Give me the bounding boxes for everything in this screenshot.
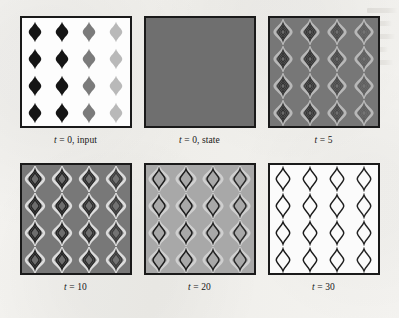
- array-cell: [146, 99, 173, 126]
- diamond-cell-icon: [103, 166, 129, 192]
- panel-panel-t10: t = 10: [14, 163, 138, 310]
- array-cell: [351, 192, 378, 219]
- diamond-cell-icon: [297, 73, 323, 99]
- diamond-cell-icon: [351, 46, 377, 72]
- array-cell: [200, 246, 227, 273]
- diamond-cell-icon: [146, 220, 172, 246]
- cell-outline: [110, 102, 123, 123]
- diamond-cell-icon: [297, 19, 323, 45]
- diamond-cell-icon: [76, 166, 102, 192]
- caption-text: = 30: [315, 282, 335, 292]
- diamond-cell-icon: [227, 220, 253, 246]
- array-cell: [200, 72, 227, 99]
- array-cell: [351, 219, 378, 246]
- diamond-cell-icon: [49, 193, 75, 219]
- array-cell: [146, 165, 173, 192]
- array-cell: [146, 72, 173, 99]
- diamond-cell-icon: [49, 73, 75, 99]
- array-cell: [297, 165, 324, 192]
- cell-outline: [303, 167, 317, 189]
- diamond-cell-icon: [227, 193, 253, 219]
- diamond-cell-icon: [297, 166, 323, 192]
- array-cell: [146, 192, 173, 219]
- array-cell: [76, 18, 103, 45]
- array-cell: [227, 165, 254, 192]
- diamond-cell-icon: [22, 220, 48, 246]
- diamond-cell-icon: [173, 166, 199, 192]
- array-cell: [173, 219, 200, 246]
- array-cell: [227, 45, 254, 72]
- array-cell: [227, 18, 254, 45]
- array-cell: [76, 45, 103, 72]
- diamond-cell-icon: [297, 247, 323, 273]
- diamond-cell-icon: [270, 166, 296, 192]
- diamond-cell-icon: [270, 247, 296, 273]
- array-cell: [103, 18, 130, 45]
- simulation-frame: [268, 16, 380, 128]
- diamond-cell-icon: [173, 193, 199, 219]
- array-cell: [200, 45, 227, 72]
- diamond-cell-icon: [76, 220, 102, 246]
- cell-outline: [303, 194, 317, 216]
- diamond-cell-icon: [76, 193, 102, 219]
- array-cell: [324, 18, 351, 45]
- panel-caption: t = 20: [188, 282, 211, 292]
- diamond-cell-icon: [324, 46, 350, 72]
- array-cell: [227, 72, 254, 99]
- cell-outline: [330, 167, 344, 189]
- array-cell: [103, 72, 130, 99]
- array-cell: [173, 72, 200, 99]
- diamond-cell-icon: [324, 193, 350, 219]
- array-cell: [270, 99, 297, 126]
- array-cell: [22, 165, 49, 192]
- cell-outline: [357, 248, 371, 270]
- array-cell: [103, 99, 130, 126]
- array-cell: [49, 45, 76, 72]
- array-cell: [146, 45, 173, 72]
- array-cell: [297, 18, 324, 45]
- diamond-cell-icon: [49, 220, 75, 246]
- panel-panel-t30: t = 30: [262, 163, 386, 310]
- array-cell: [173, 45, 200, 72]
- cell-outline: [276, 194, 290, 216]
- diamond-cell-icon: [297, 46, 323, 72]
- cell-array: [146, 165, 254, 273]
- array-cell: [76, 192, 103, 219]
- diamond-cell-icon: [200, 193, 226, 219]
- diamond-cell-icon: [351, 247, 377, 273]
- diamond-cell-icon: [351, 19, 377, 45]
- array-cell: [351, 45, 378, 72]
- panel-panel-t0-state: t = 0, state: [138, 16, 262, 163]
- diamond-cell-icon: [103, 19, 129, 45]
- diamond-cell-icon: [351, 73, 377, 99]
- array-cell: [270, 192, 297, 219]
- array-cell: [146, 219, 173, 246]
- diamond-cell-icon: [49, 166, 75, 192]
- array-cell: [173, 99, 200, 126]
- cell-outline: [110, 48, 123, 69]
- cell-outline: [56, 75, 69, 96]
- diamond-cell-icon: [76, 46, 102, 72]
- diamond-cell-icon: [270, 46, 296, 72]
- diamond-cell-icon: [22, 193, 48, 219]
- array-cell: [76, 72, 103, 99]
- panel-panel-t0-input: t = 0, input: [14, 16, 138, 163]
- array-cell: [324, 72, 351, 99]
- figure-panel-grid: t = 0, inputt = 0, statet = 5t = 10t = 2…: [0, 0, 399, 318]
- diamond-cell-icon: [49, 46, 75, 72]
- cell-outline: [303, 248, 317, 270]
- array-cell: [49, 165, 76, 192]
- panel-caption: t = 10: [64, 282, 87, 292]
- diamond-cell-icon: [324, 247, 350, 273]
- array-cell: [324, 165, 351, 192]
- diamond-cell-icon: [200, 220, 226, 246]
- array-cell: [227, 99, 254, 126]
- diamond-cell-icon: [76, 247, 102, 273]
- array-cell: [103, 192, 130, 219]
- diamond-cell-icon: [324, 220, 350, 246]
- diamond-cell-icon: [49, 19, 75, 45]
- array-cell: [76, 246, 103, 273]
- diamond-cell-icon: [103, 46, 129, 72]
- array-cell: [351, 18, 378, 45]
- array-cell: [103, 246, 130, 273]
